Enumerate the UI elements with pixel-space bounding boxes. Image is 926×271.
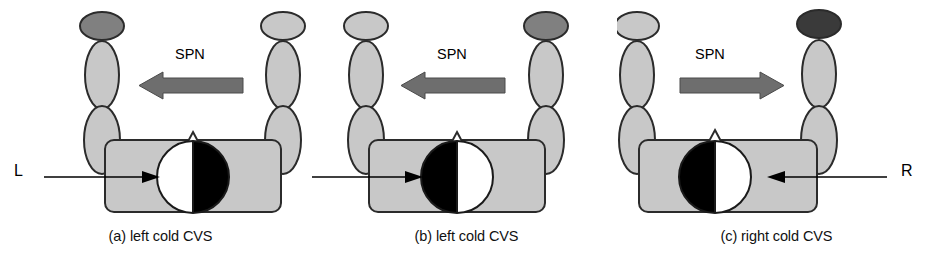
spn-label-c: SPN: [695, 47, 725, 62]
panel-a: L SPN (a) left cold CVS: [0, 0, 309, 271]
side-label-right-c: R: [901, 163, 913, 179]
panel-caption-b: (b) left cold CVS: [309, 228, 618, 244]
side-arrow-c: [767, 171, 887, 183]
panel-caption-a: (a) left cold CVS: [0, 228, 309, 244]
cvs-spn-diagram: L SPN (a) left cold CVS: [0, 0, 926, 271]
panel-c: R SPN (c) right cold CVS: [617, 0, 926, 271]
spn-arrow-b: [401, 72, 505, 99]
spn-arrow-c: [680, 72, 784, 99]
panel-b: SPN (b) left cold CVS: [309, 0, 618, 271]
head-circle-b: [421, 141, 493, 213]
spn-label-b: SPN: [437, 47, 467, 62]
head-circle-a: [157, 141, 229, 213]
spn-label-a: SPN: [175, 47, 205, 62]
panel-caption-c: (c) right cold CVS: [617, 228, 926, 244]
spn-arrow-a: [139, 72, 243, 99]
side-label-left-a: L: [14, 163, 23, 179]
head-circle-c: [679, 141, 751, 213]
